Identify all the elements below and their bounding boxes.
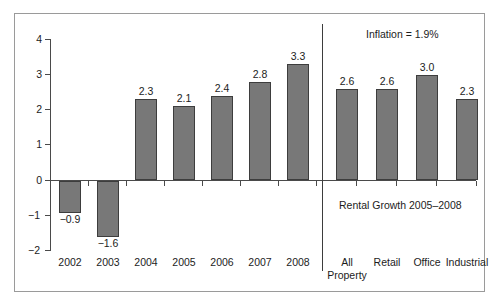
bar-2006[interactable]: [211, 96, 233, 180]
x-axis-label-2004: 2004: [126, 256, 166, 268]
y-axis-label-4: 4: [20, 34, 42, 45]
bar-value-2003: −1.6: [88, 238, 128, 249]
x-tick-2: [126, 181, 127, 186]
series-divider: [322, 24, 323, 271]
inflation-annotation: Inflation = 1.9%: [366, 28, 439, 40]
bar-retail[interactable]: [376, 89, 398, 180]
y-axis-label-2: 2: [20, 104, 42, 115]
bar-2007[interactable]: [249, 82, 271, 180]
bar-value-all-property: 2.6: [327, 76, 367, 87]
y-axis-label-neg1: −1: [18, 210, 40, 221]
x-axis-label-industrial: Industrial: [443, 256, 491, 268]
x-tick-9: [396, 181, 397, 186]
bar-industrial[interactable]: [456, 99, 478, 180]
y-tick-1: [45, 144, 50, 145]
y-axis-label-0: 0: [20, 175, 42, 186]
bar-value-retail: 2.6: [367, 76, 407, 87]
x-axis-label-2003: 2003: [88, 256, 128, 268]
bar-all-property[interactable]: [336, 89, 358, 180]
bar-value-2006: 2.4: [202, 83, 242, 94]
x-tick-0: [50, 181, 51, 186]
bar-2005[interactable]: [173, 106, 195, 180]
bar-value-industrial: 2.3: [447, 86, 487, 97]
bar-2003[interactable]: [97, 181, 119, 237]
x-axis-label-retail: Retail: [367, 256, 407, 268]
x-axis-label-office: Office: [407, 256, 447, 268]
x-tick-1: [88, 181, 89, 186]
bar-value-office: 3.0: [407, 62, 447, 73]
chart-figure: 4 3 2 1 0 −1 −2 −0.9 −1.6 2.3 2.1: [0, 0, 498, 306]
y-tick-2: [45, 109, 50, 110]
bar-value-2004: 2.3: [126, 86, 166, 97]
y-axis-label-neg2: −2: [18, 245, 40, 256]
bar-office[interactable]: [416, 75, 438, 180]
x-axis-label-2008: 2008: [278, 256, 318, 268]
rental-growth-annotation: Rental Growth 2005–2008: [339, 199, 462, 211]
chart-plot-area: 4 3 2 1 0 −1 −2 −0.9 −1.6 2.3 2.1: [0, 0, 498, 306]
x-axis-label-all-property-line2: Property: [320, 269, 374, 281]
x-axis-label-2005: 2005: [164, 256, 204, 268]
y-tick-3: [45, 74, 50, 75]
y-axis-label-3: 3: [20, 69, 42, 80]
x-axis-label-all-property-line1: All: [327, 256, 367, 268]
y-tick-neg2: [45, 250, 50, 251]
x-tick-8: [356, 181, 357, 186]
x-tick-4: [202, 181, 203, 186]
x-tick-11: [476, 181, 477, 186]
x-tick-3: [164, 181, 165, 186]
bar-2004[interactable]: [135, 99, 157, 180]
x-axis-label-2007: 2007: [240, 256, 280, 268]
x-axis-label-2006: 2006: [202, 256, 242, 268]
x-tick-5: [240, 181, 241, 186]
bar-2002[interactable]: [59, 181, 81, 213]
bar-value-2002: −0.9: [50, 214, 90, 225]
x-tick-7: [316, 181, 317, 186]
y-tick-4: [45, 39, 50, 40]
x-tick-10: [436, 181, 437, 186]
x-axis-label-2002: 2002: [50, 256, 90, 268]
y-axis-label-1: 1: [20, 139, 42, 150]
bar-2008[interactable]: [287, 64, 309, 180]
x-tick-6: [278, 181, 279, 186]
bar-value-2008: 3.3: [278, 51, 318, 62]
bar-value-2005: 2.1: [164, 93, 204, 104]
bar-value-2007: 2.8: [240, 69, 280, 80]
